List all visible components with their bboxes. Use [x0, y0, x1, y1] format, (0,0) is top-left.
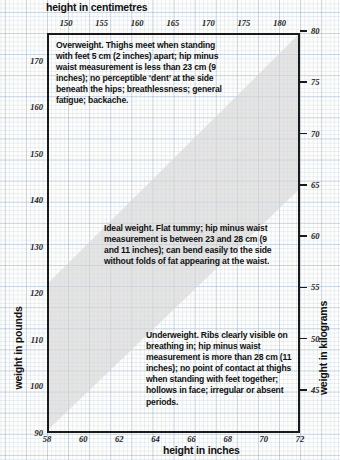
- top-tick-label-cm: 150: [60, 18, 73, 28]
- bottom-tick-label-inches: 70: [260, 434, 269, 444]
- top-axis-title: height in centimetres: [46, 1, 147, 13]
- top-tick-label-cm: 175: [238, 18, 251, 28]
- note-ideal-weight: Ideal weight. Flat tummy; hip minus wais…: [104, 223, 276, 267]
- left-tick-label-pounds: 130: [21, 242, 43, 252]
- right-tick-label-kilograms: 55: [311, 282, 320, 292]
- left-tick-label-pounds: 120: [21, 288, 43, 298]
- right-tick-label-kilograms: 65: [311, 180, 320, 190]
- right-tick-mark: [300, 30, 307, 32]
- left-tick-label-pounds: 170: [21, 56, 43, 66]
- note-overweight: Overweight. Thighs meet when standing wi…: [56, 40, 228, 107]
- top-tick-label-cm: 160: [131, 18, 144, 28]
- bottom-tick-label-inches: 72: [296, 434, 305, 444]
- right-tick-mark: [300, 235, 307, 237]
- left-tick-label-pounds: 140: [21, 195, 43, 205]
- bottom-tick-label-inches: 58: [43, 434, 52, 444]
- right-tick-mark: [300, 184, 307, 186]
- bottom-tick-label-inches: 62: [115, 434, 124, 444]
- top-tick-label-cm: 165: [166, 18, 179, 28]
- right-tick-mark: [300, 287, 307, 289]
- bottom-tick-label-inches: 68: [223, 434, 232, 444]
- left-tick-label-pounds: 90: [21, 428, 43, 438]
- top-tick-label-cm: 155: [95, 18, 108, 28]
- right-tick-label-kilograms: 70: [311, 129, 320, 139]
- bottom-tick-label-inches: 64: [151, 434, 160, 444]
- left-tick-label-pounds: 110: [21, 335, 43, 345]
- right-tick-mark: [300, 389, 307, 391]
- top-tick-label-cm: 180: [273, 18, 286, 28]
- left-tick-label-pounds: 160: [21, 102, 43, 112]
- bottom-axis-title: height in inches: [163, 444, 240, 456]
- right-tick-label-kilograms: 45: [311, 385, 320, 395]
- right-tick-label-kilograms: 50: [311, 334, 320, 344]
- left-tick-label-pounds: 150: [21, 149, 43, 159]
- left-tick-label-pounds: 100: [21, 381, 43, 391]
- right-tick-label-kilograms: 80: [311, 26, 320, 36]
- right-tick-mark: [300, 338, 307, 340]
- right-tick-mark: [300, 133, 307, 135]
- note-underweight: Underweight. Ribs clearly visible on bre…: [146, 330, 298, 408]
- bottom-tick-label-inches: 66: [187, 434, 196, 444]
- top-tick-label-cm: 170: [202, 18, 215, 28]
- right-tick-label-kilograms: 75: [311, 77, 320, 87]
- right-axis-title: weight in kilograms: [317, 300, 329, 396]
- bottom-tick-label-inches: 60: [79, 434, 88, 444]
- right-tick-mark: [300, 81, 307, 83]
- right-tick-label-kilograms: 60: [311, 231, 320, 241]
